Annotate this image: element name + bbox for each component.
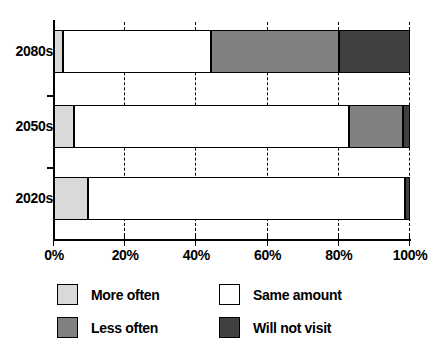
y-axis-category-label: 2080s (16, 43, 53, 59)
x-axis-tick (409, 234, 410, 246)
y-axis-category-label: 2050s (16, 118, 53, 134)
legend-swatch-less-often (57, 317, 78, 338)
legend-item-more-often: More often (57, 284, 219, 305)
legend-item-will-not-visit: Will not visit (219, 317, 331, 338)
bar-row (54, 30, 410, 73)
x-axis-line (53, 239, 411, 241)
x-axis-tick-label: 100% (393, 247, 428, 263)
legend-label-will-not-visit: Will not visit (253, 320, 331, 336)
legend-row-2: Less often Will not visit (57, 311, 417, 344)
bar-segment (63, 30, 211, 73)
legend-swatch-more-often (57, 284, 78, 305)
bar-segment (349, 105, 402, 148)
legend-label-more-often: More often (91, 287, 160, 303)
bar-row (54, 177, 410, 220)
bar-segment (405, 177, 410, 220)
x-axis-tick-label: 80% (325, 247, 352, 263)
legend-swatch-same-amount (219, 284, 240, 305)
bar-segment (54, 105, 74, 148)
legend-label-less-often: Less often (91, 320, 158, 336)
legend-item-less-often: Less often (57, 317, 219, 338)
chart-legend: More often Same amount Less often Will n… (57, 278, 417, 344)
y-axis-tick (47, 95, 55, 97)
x-axis-tick (124, 234, 125, 246)
stacked-bar-chart: 0%20%40%60%80%100% 2080s2050s2020s More … (0, 0, 437, 344)
legend-row-1: More often Same amount (57, 278, 417, 311)
x-axis-tick-label: 60% (254, 247, 281, 263)
x-axis-tick-label: 0% (44, 247, 64, 263)
bar-row (54, 105, 410, 148)
bar-segment (74, 105, 350, 148)
legend-label-same-amount: Same amount (253, 287, 342, 303)
y-axis-tick (47, 167, 55, 169)
x-axis-tick-label: 40% (183, 247, 210, 263)
bar-segment (54, 30, 63, 73)
bar-segment (54, 177, 88, 220)
legend-swatch-will-not-visit (219, 317, 240, 338)
x-axis-tick-label: 20% (112, 247, 139, 263)
bar-segment (403, 105, 410, 148)
legend-item-same-amount: Same amount (219, 284, 342, 305)
bar-segment (211, 30, 339, 73)
x-axis-tick (53, 234, 54, 246)
y-axis-category-label: 2020s (16, 190, 53, 206)
x-axis-tick (195, 234, 196, 246)
x-axis-tick (267, 234, 268, 246)
x-axis-tick (338, 234, 339, 246)
bar-segment (88, 177, 405, 220)
bar-segment (339, 30, 410, 73)
